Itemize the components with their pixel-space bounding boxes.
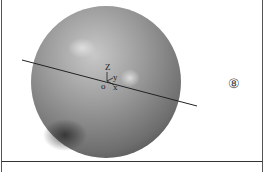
highlight-1 bbox=[68, 38, 96, 58]
shadow bbox=[43, 119, 87, 151]
highlight-2 bbox=[120, 69, 140, 87]
x-axis-label: x bbox=[113, 83, 118, 92]
y-axis-label: y bbox=[113, 73, 118, 82]
origin-label: o bbox=[101, 82, 106, 91]
sphere-diagram bbox=[0, 0, 266, 172]
figure-number: ⑧ bbox=[228, 76, 240, 92]
z-axis-label: Z bbox=[105, 63, 111, 72]
